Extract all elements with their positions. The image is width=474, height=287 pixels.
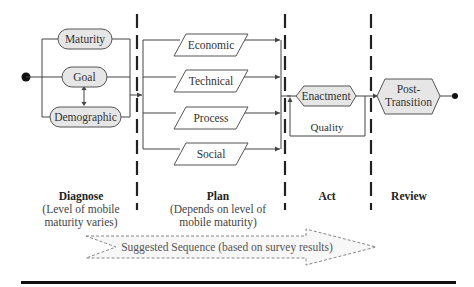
sequence-arrow-label: Suggested Sequence (based on survey resu… xyxy=(121,241,333,254)
node-post-transition: Post- Transition xyxy=(377,79,440,114)
phase-diagnose-title: Diagnose xyxy=(59,190,104,203)
phase-label-review: Review xyxy=(391,190,427,202)
phase-plan-title: Plan xyxy=(207,190,230,202)
node-post-transition-line1: Post- xyxy=(397,83,421,95)
node-demographic-label: Demographic xyxy=(54,111,117,124)
node-maturity: Maturity xyxy=(58,29,112,49)
node-economic-label: Economic xyxy=(188,39,235,51)
phase-diagnose-sub2: maturity varies) xyxy=(44,216,117,229)
node-process-label: Process xyxy=(193,112,229,124)
phase-label-diagnose: Diagnose (Level of mobile maturity varie… xyxy=(42,190,119,229)
phase-plan-sub2: mobile maturity) xyxy=(179,216,257,229)
node-post-transition-line2: Transition xyxy=(385,96,432,108)
phase-act-title: Act xyxy=(318,190,335,202)
node-technical-label: Technical xyxy=(189,75,234,87)
sequence-arrow: Suggested Sequence (based on survey resu… xyxy=(86,229,376,265)
node-process: Process xyxy=(174,107,248,129)
phase-diagnose-sub1: (Level of mobile xyxy=(42,203,119,216)
phase-plan-sub1: (Depends on level of xyxy=(170,203,266,216)
node-goal: Goal xyxy=(62,67,107,87)
phase-review-title: Review xyxy=(391,190,427,202)
node-social-label: Social xyxy=(197,148,226,160)
node-enactment-label: Enactment xyxy=(301,90,351,102)
node-economic: Economic xyxy=(174,34,248,56)
quality-loop-label: Quality xyxy=(311,121,344,133)
node-enactment: Enactment xyxy=(296,86,356,106)
node-technical: Technical xyxy=(174,70,248,92)
node-maturity-label: Maturity xyxy=(65,33,105,46)
process-diagram: Maturity Goal Demographic Economic Techn… xyxy=(0,0,474,287)
node-social: Social xyxy=(174,143,248,165)
node-goal-label: Goal xyxy=(73,71,95,83)
node-demographic: Demographic xyxy=(50,107,121,127)
end-dot-icon xyxy=(452,93,458,99)
phase-label-act: Act xyxy=(318,190,335,202)
phase-label-plan: Plan (Depends on level of mobile maturit… xyxy=(170,190,266,229)
bottom-rule xyxy=(21,281,456,284)
phase-dividers xyxy=(137,14,371,210)
